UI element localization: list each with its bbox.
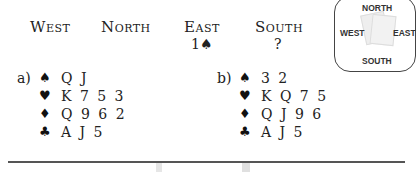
diamond-cards: Q J 9 6 [261,105,323,123]
auction-bid-south: ? [274,36,282,52]
compass-diagram: NORTH WEST EAST SOUTH [334,0,416,72]
auction-header-west: West [30,18,70,36]
hand-label: a) [17,69,39,87]
auction-header-south: South [255,18,303,36]
club-cards: A J 5 [261,123,305,141]
auction-header-north: North [101,18,151,36]
heart-cards: K Q 7 5 [261,87,328,105]
heart-icon: ♥ [39,87,61,105]
club-icon: ♣ [239,123,261,141]
spade-icon: ♠ [39,69,61,87]
hand-a: a) ♠ Q J ♥ K 7 5 3 ♦ Q 9 6 2 ♣ A J 5 [17,69,127,141]
club-cards: A J 5 [61,123,105,141]
heart-icon: ♥ [239,87,261,105]
compass-west: WEST [340,28,365,38]
diamond-icon: ♦ [39,105,61,123]
diamond-cards: Q 9 6 2 [61,105,127,123]
spade-cards: 3 2 [261,69,289,87]
compass-east: EAST [393,28,416,38]
club-icon: ♣ [39,123,61,141]
diamond-icon: ♦ [239,105,261,123]
auction-bid-east: 1♠ [191,36,212,52]
page-artifact [242,163,250,172]
spade-cards: Q J [61,69,89,87]
hand-b: b) ♠ 3 2 ♥ K Q 7 5 ♦ Q J 9 6 ♣ A J 5 [217,69,328,141]
compass-north: NORTH [362,3,392,13]
divider-rule [8,161,405,163]
auction-header-east: East [184,18,220,36]
compass-south: SOUTH [362,56,392,66]
page-artifact [156,163,162,172]
spade-icon: ♠ [239,69,261,87]
heart-cards: K 7 5 3 [61,87,126,105]
hand-label: b) [217,69,239,87]
